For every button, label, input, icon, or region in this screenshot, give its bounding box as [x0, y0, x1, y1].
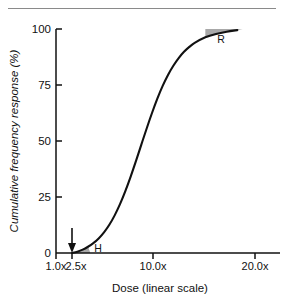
x-tick-label-10.0x: 10.0x [140, 260, 167, 272]
region-label-r: R [217, 33, 225, 45]
y-tick-label-100: 100 [32, 23, 51, 35]
y-tick-label-25: 25 [38, 191, 51, 203]
y-tick-label-50: 50 [38, 135, 51, 147]
x-tick-label-1.0x: 1.0x [46, 260, 67, 272]
x-tick-label-20.0x: 20.0x [242, 260, 269, 272]
y-tick-label-0: 0 [45, 247, 51, 259]
figure-container: 100 75 50 25 0 1.0x 2.5x 10.0x 20.0x H R… [0, 0, 285, 306]
x-tick-label-2.5x: 2.5x [66, 260, 87, 272]
y-axis-title: Cumulative frequency response (%) [8, 49, 20, 232]
y-tick-label-75: 75 [38, 79, 51, 91]
threshold-arrow-icon [68, 228, 76, 253]
dose-response-chart: 100 75 50 25 0 1.0x 2.5x 10.0x 20.0x H R… [0, 0, 285, 306]
region-label-h: H [94, 242, 102, 254]
response-curve [72, 30, 237, 253]
x-axis-title: Dose (linear scale) [112, 282, 208, 294]
